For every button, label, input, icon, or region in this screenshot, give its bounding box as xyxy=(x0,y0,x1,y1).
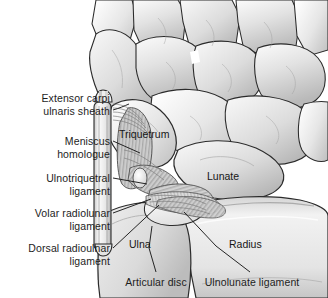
label-articular-disc: Articular disc xyxy=(120,276,192,289)
prestyloid-recess xyxy=(133,168,147,188)
label-ulna: Ulna xyxy=(129,238,151,250)
label-triquetrum: Triquetrum xyxy=(119,128,169,140)
label-volar-radiolunar-ligament: Volar radiolunar ligament xyxy=(2,207,110,232)
anatomy-figure: Extensor carpi ulnaris sheath Meniscus h… xyxy=(0,0,328,298)
label-ulnolunate-ligament: Ulnolunate ligament xyxy=(198,276,306,289)
label-dorsal-radioulnar-ligament: Dorsal radioulnar ligament xyxy=(0,242,110,267)
label-lunate: Lunate xyxy=(207,170,239,182)
label-extensor-carpi-ulnaris-sheath: Extensor carpi ulnaris sheath xyxy=(10,92,110,117)
label-meniscus-homologue: Meniscus homologue xyxy=(18,135,110,160)
label-ulnotriquetral-ligament: Ulnotriquetral ligament xyxy=(8,172,110,197)
label-radius: Radius xyxy=(229,238,262,250)
